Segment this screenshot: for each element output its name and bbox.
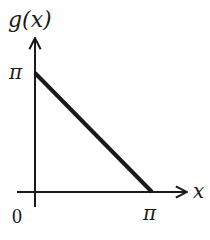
x-tick-pi: π	[142, 201, 157, 225]
g-line	[35, 73, 152, 192]
y-tick-pi: π	[8, 60, 23, 84]
origin-label: 0	[12, 205, 22, 227]
y-axis-label: g(x)	[8, 7, 52, 32]
graph: g(x) x π π 0	[0, 0, 210, 240]
x-axis-label: x	[193, 179, 204, 203]
